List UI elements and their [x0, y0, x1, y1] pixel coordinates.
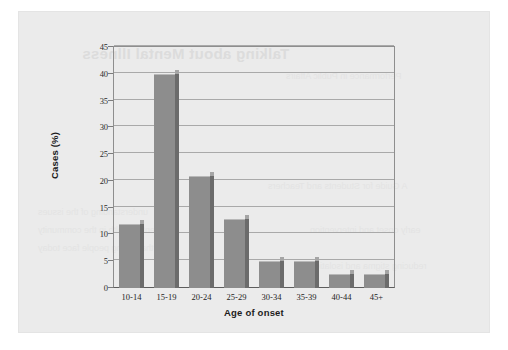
y-tick-label: 0: [82, 283, 108, 293]
x-tick-label: 25-29: [219, 292, 254, 302]
bar[interactable]: [294, 261, 315, 288]
x-tick-label: 35-39: [289, 292, 324, 302]
bar[interactable]: [154, 74, 175, 288]
bar-slot: [154, 47, 175, 288]
x-tick-label: 20-24: [184, 292, 219, 302]
y-tick-label: 40: [82, 69, 108, 79]
bar-top-highlight: [245, 215, 249, 219]
x-tick-label: 15-19: [149, 292, 184, 302]
bar-side-shadow: [350, 274, 354, 288]
bar[interactable]: [329, 274, 350, 288]
bar-side-shadow: [210, 176, 214, 288]
bar-slot: [294, 47, 315, 288]
gridline: [114, 45, 394, 46]
x-tick-label: 10-14: [114, 292, 149, 302]
bar-chart: Cases (%) 051015202530354045 10-1415-192…: [0, 0, 508, 350]
y-tick-label: 25: [82, 149, 108, 159]
bar-top-highlight: [280, 257, 284, 261]
bar[interactable]: [189, 176, 210, 288]
y-tick-label: 15: [82, 203, 108, 213]
bar-side-shadow: [140, 224, 144, 288]
bar-slot: [224, 47, 245, 288]
bar-top-highlight: [315, 257, 319, 261]
bar-top-highlight: [140, 220, 144, 224]
bar[interactable]: [119, 224, 140, 288]
bar-slot: [259, 47, 280, 288]
y-axis-ticks: 051015202530354045: [80, 46, 108, 288]
x-tick-label: 45+: [359, 292, 394, 302]
bar-side-shadow: [175, 74, 179, 288]
bar-side-shadow: [315, 261, 319, 288]
y-tick-label: 35: [82, 96, 108, 106]
bar-side-shadow: [245, 219, 249, 288]
y-tick-label: 10: [82, 229, 108, 239]
bar-slot: [364, 47, 385, 288]
y-tick-label: 30: [82, 122, 108, 132]
y-tick-label: 45: [82, 42, 108, 52]
bar-top-highlight: [385, 270, 389, 274]
page-canvas: Talking about Mental Illness Performance…: [0, 0, 508, 350]
bar-slot: [119, 47, 140, 288]
x-axis-ticks: 10-1415-1920-2425-2930-3435-3940-4445+: [114, 292, 394, 308]
bar-slot: [329, 47, 350, 288]
y-tick-label: 5: [82, 256, 108, 266]
bar-top-highlight: [210, 172, 214, 176]
bar[interactable]: [224, 219, 245, 288]
x-axis-label: Age of onset: [113, 307, 395, 318]
y-tick-label: 20: [82, 176, 108, 186]
bar-series: [114, 47, 394, 288]
bar-slot: [189, 47, 210, 288]
bar-top-highlight: [175, 70, 179, 74]
x-tick-label: 40-44: [324, 292, 359, 302]
bar-side-shadow: [385, 274, 389, 288]
bar-top-highlight: [350, 270, 354, 274]
bar[interactable]: [364, 274, 385, 288]
bar-side-shadow: [280, 261, 284, 288]
y-axis-label: Cases (%): [49, 96, 60, 216]
bar[interactable]: [259, 261, 280, 288]
x-tick-label: 30-34: [254, 292, 289, 302]
